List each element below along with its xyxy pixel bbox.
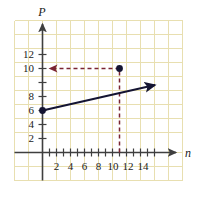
point-marked [116, 65, 123, 72]
y-tick-label-12: 12 [23, 48, 34, 60]
y-tick-label-4: 4 [29, 118, 35, 130]
x-tick-label-14: 14 [138, 160, 150, 172]
x-tick-label-6: 6 [82, 160, 88, 172]
y-axis-label: P [37, 5, 46, 19]
y-tick-label-6: 6 [29, 104, 35, 116]
y-tick-label-8: 8 [29, 90, 35, 102]
x-tick-label-8: 8 [96, 160, 102, 172]
x-tick-label-10: 10 [108, 160, 120, 172]
x-tick-label-12: 12 [123, 160, 134, 172]
x-tick-label-2: 2 [54, 160, 60, 172]
x-tick-label-4: 4 [68, 160, 74, 172]
coordinate-plane: P n 2 4 6 8 10 12 2 4 6 8 10 12 14 [0, 0, 199, 197]
x-axis-label: n [185, 146, 191, 160]
y-tick-label-2: 2 [29, 132, 35, 144]
y-tick-label-10: 10 [23, 62, 35, 74]
point-y-intercept [39, 107, 46, 114]
graph-figure: P n 2 4 6 8 10 12 2 4 6 8 10 12 14 [0, 0, 199, 197]
